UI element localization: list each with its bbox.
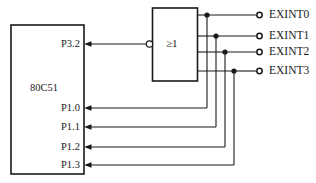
net-label-exint3: EXINT3 (269, 65, 309, 77)
arrowhead-p32 (84, 41, 92, 47)
chip-name-label: 80C51 (30, 83, 58, 94)
junction-dot-exint1 (213, 33, 218, 38)
pin-label-p1-2: P1.2 (34, 142, 80, 153)
arrowhead-p10 (84, 105, 92, 111)
pin-label-p1-3: P1.3 (34, 160, 80, 171)
pin-label-p3-2: P3.2 (34, 39, 80, 50)
arrowhead-p12 (84, 144, 92, 150)
arrowhead-p13 (84, 162, 92, 168)
pin-label-p1-0: P1.0 (34, 103, 80, 114)
net-label-exint1: EXINT1 (269, 30, 309, 42)
or-gate-symbol-label: ≥1 (166, 38, 178, 49)
junction-dot-exint2 (222, 49, 227, 54)
terminal-pad-exint3[interactable] (257, 68, 262, 73)
junction-dot-exint0 (204, 12, 209, 17)
inverter-bubble-icon (146, 41, 152, 47)
circuit-diagram: 80C51 ≥1 P3.2 P1.0 P1.1 P1.2 P1.3 EXINT0… (0, 0, 316, 183)
pin-label-p1-1: P1.1 (34, 122, 80, 133)
arrowhead-p11 (84, 124, 92, 130)
terminal-pad-exint0[interactable] (257, 12, 262, 17)
net-label-exint0: EXINT0 (269, 9, 309, 21)
terminal-pad-exint1[interactable] (257, 33, 262, 38)
junction-dot-exint3 (231, 68, 236, 73)
terminal-pad-exint2[interactable] (257, 49, 262, 54)
net-label-exint2: EXINT2 (269, 46, 309, 58)
